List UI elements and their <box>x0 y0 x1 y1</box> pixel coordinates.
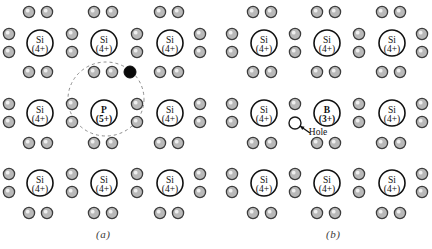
si-core-a-r3c2-element-label: Si <box>100 175 108 185</box>
electron-highlight <box>229 49 233 53</box>
si-core-a-r3c1-element-label: Si <box>36 175 44 185</box>
electron-highlight <box>69 49 73 53</box>
electron-highlight <box>6 101 10 105</box>
electron-highlight <box>356 49 360 53</box>
si-core-b-r3c1-charge-label: (4+) <box>256 184 272 195</box>
electron-highlight <box>314 140 318 144</box>
electron-highlight <box>6 119 10 123</box>
electron-highlight <box>356 189 360 193</box>
electron-highlight <box>6 171 10 175</box>
si-core-a-r3c3-element-label: Si <box>166 175 174 185</box>
electron-highlight <box>397 140 401 144</box>
electron-highlight <box>250 210 254 214</box>
si-core-b-r1c1-element-label: Si <box>260 35 268 45</box>
electron-highlight <box>268 210 272 214</box>
electron-highlight <box>229 101 233 105</box>
electron-highlight <box>6 31 10 35</box>
electron-highlight <box>332 9 336 13</box>
electron-highlight <box>419 189 423 193</box>
hole-label: Hole <box>309 127 327 137</box>
electron-highlight <box>134 171 138 175</box>
electron-highlight <box>91 140 95 144</box>
electron-highlight <box>250 69 254 73</box>
p-core-a-r2c2-charge-label: (5+) <box>96 114 113 125</box>
semiconductor-doping-figure: Si(4+)Si(4+)Si(4+)Si(4+)P(5+)Si(4+)Si(4+… <box>0 0 432 249</box>
electron-highlight <box>175 140 179 144</box>
si-core-b-r1c3-element-label: Si <box>388 35 396 45</box>
electron-highlight <box>69 171 73 175</box>
electron-highlight <box>397 210 401 214</box>
free-electron <box>124 66 136 78</box>
electron-highlight <box>250 140 254 144</box>
electron-highlight <box>134 101 138 105</box>
electron-highlight <box>157 9 161 13</box>
electron-highlight <box>292 101 296 105</box>
electron-highlight <box>175 210 179 214</box>
electron-highlight <box>356 101 360 105</box>
si-core-a-r1c2-element-label: Si <box>100 35 108 45</box>
si-core-b-r3c3-element-label: Si <box>388 175 396 185</box>
electron-highlight <box>332 140 336 144</box>
electron-highlight <box>157 140 161 144</box>
electron-highlight <box>6 189 10 193</box>
electron-highlight <box>314 9 318 13</box>
electron-highlight <box>397 69 401 73</box>
electron-highlight <box>314 210 318 214</box>
electron-highlight <box>91 9 95 13</box>
electron-highlight <box>229 119 233 123</box>
p-core-a-r2c2-element-label: P <box>101 105 107 115</box>
electron-highlight <box>332 69 336 73</box>
si-core-a-r1c3-charge-label: (4+) <box>162 44 178 55</box>
electron-highlight <box>134 189 138 193</box>
si-core-b-r3c3-charge-label: (4+) <box>384 184 400 195</box>
electron-highlight <box>268 9 272 13</box>
electron-highlight <box>197 49 201 53</box>
si-core-b-r3c2-element-label: Si <box>323 175 331 185</box>
electron-highlight <box>44 9 48 13</box>
si-core-b-r2c1-charge-label: (4+) <box>256 114 272 125</box>
electron-highlight <box>197 101 201 105</box>
electron-highlight <box>26 9 30 13</box>
si-core-b-r1c2-charge-label: (4+) <box>319 44 335 55</box>
electron-highlight <box>314 69 318 73</box>
electron-highlight <box>69 189 73 193</box>
electron-highlight <box>175 9 179 13</box>
si-core-a-r1c1-charge-label: (4+) <box>32 44 48 55</box>
si-core-a-r3c3-charge-label: (4+) <box>162 184 178 195</box>
electron-highlight <box>397 9 401 13</box>
electron-highlight <box>44 210 48 214</box>
electron-highlight <box>91 69 95 73</box>
electron-highlight <box>268 140 272 144</box>
si-core-a-r2c1-charge-label: (4+) <box>32 114 48 125</box>
si-core-a-r3c2-charge-label: (4+) <box>96 184 112 195</box>
b-core-b-r2c2-charge-label: (3+) <box>319 114 336 125</box>
electron-highlight <box>292 189 296 193</box>
electron-highlight <box>332 210 336 214</box>
electron-highlight <box>109 69 113 73</box>
electron-highlight <box>44 69 48 73</box>
electron-highlight <box>229 171 233 175</box>
si-core-a-r1c3-element-label: Si <box>166 35 174 45</box>
electron-highlight <box>229 189 233 193</box>
electron-highlight <box>134 119 138 123</box>
electron-highlight <box>419 171 423 175</box>
electron-highlight <box>69 119 73 123</box>
electron-highlight <box>292 31 296 35</box>
electron-highlight <box>109 9 113 13</box>
si-core-a-r1c1-element-label: Si <box>36 35 44 45</box>
panel-b-caption: (b) <box>326 228 340 240</box>
si-core-b-r1c1-charge-label: (4+) <box>256 44 272 55</box>
hole-marker <box>289 117 301 129</box>
electron-highlight <box>356 171 360 175</box>
b-core-b-r2c2-element-label: B <box>324 105 331 115</box>
electron-highlight <box>69 101 73 105</box>
electron-highlight <box>157 69 161 73</box>
si-core-a-r1c2-charge-label: (4+) <box>96 44 112 55</box>
electron-highlight <box>69 31 73 35</box>
electron-highlight <box>26 140 30 144</box>
electron-highlight <box>379 140 383 144</box>
electron-highlight <box>6 49 10 53</box>
electron-highlight <box>109 210 113 214</box>
panel-a-caption: (a) <box>96 228 110 240</box>
si-core-a-r3c1-charge-label: (4+) <box>32 184 48 195</box>
